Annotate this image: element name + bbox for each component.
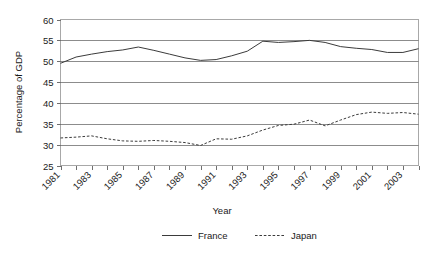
legend-label-france: France xyxy=(198,230,228,241)
x-tick-labels: 1981198319851987198919911993199519971999… xyxy=(39,169,404,192)
y-tick-label: 50 xyxy=(43,56,54,67)
y-axis-title: Percentage of GDP xyxy=(13,51,24,133)
x-tick-label: 1985 xyxy=(101,169,124,192)
chart-legend: France Japan xyxy=(162,230,317,241)
line-chart: 2530354045505560 19811983198519871989199… xyxy=(0,0,429,254)
x-tick-label: 1997 xyxy=(288,169,311,192)
x-axis-title: Year xyxy=(212,205,231,216)
y-gridlines xyxy=(61,41,419,146)
plot-area-frame xyxy=(61,20,419,166)
x-tick-label: 2003 xyxy=(382,169,405,192)
x-tick-label: 1983 xyxy=(70,169,93,192)
y-tick-label: 55 xyxy=(43,35,54,46)
y-tick-marks xyxy=(57,21,61,167)
y-tick-label: 30 xyxy=(43,140,54,151)
series-line-japan xyxy=(61,112,419,145)
y-tick-label: 45 xyxy=(43,77,54,88)
x-tick-label: 1999 xyxy=(319,169,342,192)
series-line-france xyxy=(61,40,419,63)
x-tick-label: 1981 xyxy=(39,169,62,192)
chart-canvas: 2530354045505560 19811983198519871989199… xyxy=(0,0,429,254)
x-tick-label: 1991 xyxy=(195,169,218,192)
x-tick-label: 1995 xyxy=(257,169,280,192)
legend-label-japan: Japan xyxy=(291,230,317,241)
y-tick-label: 35 xyxy=(43,119,54,130)
y-tick-label: 60 xyxy=(43,15,54,26)
x-tick-label: 2001 xyxy=(350,169,373,192)
x-tick-label: 1993 xyxy=(226,169,249,192)
x-tick-label: 1989 xyxy=(164,169,187,192)
x-tick-label: 1987 xyxy=(133,169,156,192)
y-tick-labels: 2530354045505560 xyxy=(43,15,54,172)
y-tick-label: 40 xyxy=(43,98,54,109)
